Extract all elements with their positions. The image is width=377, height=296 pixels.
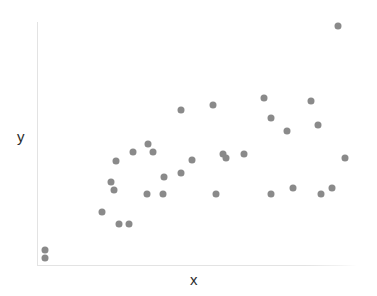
scatter-point: [289, 184, 296, 191]
scatter-point: [144, 141, 151, 148]
scatter-point: [150, 149, 157, 156]
scatter-point: [212, 191, 219, 198]
scatter-point: [144, 191, 151, 198]
scatter-point: [334, 22, 341, 29]
plot-area: [38, 22, 355, 266]
y-axis-label: y: [17, 129, 25, 144]
scatter-point: [329, 184, 336, 191]
scatter-point: [130, 149, 137, 156]
scatter-point: [160, 173, 167, 180]
scatter-point: [177, 107, 184, 114]
scatter-point: [283, 128, 290, 135]
scatter-point: [125, 221, 132, 228]
scatter-point: [241, 151, 248, 158]
scatter-point: [307, 98, 314, 105]
scatter-point: [112, 158, 119, 165]
scatter-point: [267, 114, 274, 121]
scatter-point: [261, 95, 268, 102]
scatter-point: [222, 154, 229, 161]
scatter-point: [41, 246, 48, 253]
scatter-point: [209, 101, 216, 108]
scatter-point: [41, 254, 48, 261]
scatter-point: [177, 170, 184, 177]
scatter-point: [318, 191, 325, 198]
scatter-point: [99, 209, 106, 216]
scatter-point: [314, 121, 321, 128]
scatter-point: [111, 187, 118, 194]
scatter-plot-figure: y x: [0, 0, 377, 296]
scatter-point: [107, 179, 114, 186]
scatter-point: [267, 191, 274, 198]
scatter-point: [115, 221, 122, 228]
scatter-point: [342, 154, 349, 161]
x-axis-label: x: [190, 272, 198, 287]
scatter-point: [189, 157, 196, 164]
scatter-point: [159, 191, 166, 198]
